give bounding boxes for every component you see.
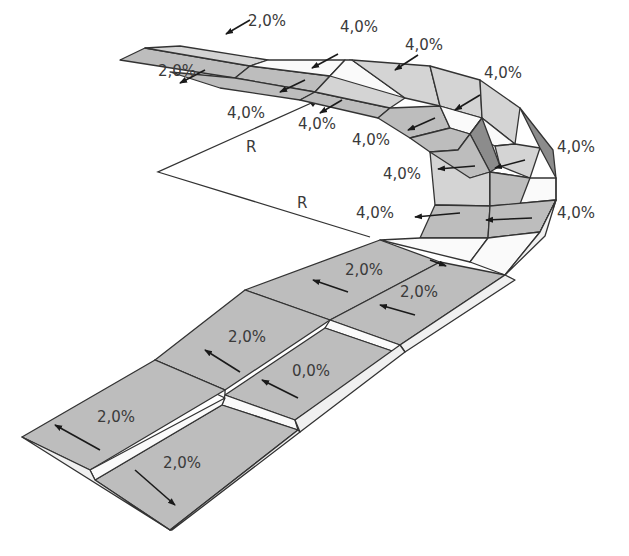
slope-label-top-left-inner: 2,0% xyxy=(158,64,196,79)
slope-label-bottom-left: 2,0% xyxy=(97,410,135,425)
slope-label-inner-2: 4,0% xyxy=(298,117,336,132)
road-drawing xyxy=(0,0,629,556)
slope-label-top-mid-1: 4,0% xyxy=(340,20,378,35)
slope-label-right-outer-2: 4,0% xyxy=(557,206,595,221)
slope-label-straight-center: 0,0% xyxy=(292,364,330,379)
slope-label-top-mid-2: 4,0% xyxy=(405,38,443,53)
slope-label-straight-outer-1: 2,0% xyxy=(345,263,383,278)
radius-label-upper: R xyxy=(246,140,256,155)
near-road-segment xyxy=(22,240,515,530)
slope-label-inner-4: 4,0% xyxy=(383,167,421,182)
slope-label-right-outer-1: 4,0% xyxy=(557,140,595,155)
slope-label-inner-5: 4,0% xyxy=(356,206,394,221)
slope-label-inner-1: 4,0% xyxy=(227,106,265,121)
slope-label-straight-outer-2: 2,0% xyxy=(228,330,266,345)
slope-label-straight-inner-1: 2,0% xyxy=(400,285,438,300)
radius-label-lower: R xyxy=(297,196,307,211)
slope-label-inner-3: 4,0% xyxy=(352,133,390,148)
slope-label-bottom-right: 2,0% xyxy=(163,456,201,471)
slope-label-top-right-1: 4,0% xyxy=(484,66,522,81)
slope-label-top-left-outer: 2,0% xyxy=(248,14,286,29)
superelevation-diagram: 2,0% 2,0% 4,0% 4,0% 4,0% 4,0% 4,0% 4,0% … xyxy=(0,0,629,556)
